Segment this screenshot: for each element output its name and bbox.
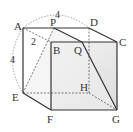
label-Q: Q bbox=[74, 44, 82, 56]
segment-AB-dashed bbox=[23, 28, 51, 42]
label-F: F bbox=[47, 113, 53, 125]
label-B: B bbox=[53, 44, 60, 56]
label-G: G bbox=[112, 113, 120, 125]
label-H: H bbox=[80, 81, 88, 93]
measure-ap: 2 bbox=[31, 36, 36, 47]
label-C: C bbox=[119, 36, 126, 48]
measure-side: 4 bbox=[10, 54, 15, 65]
measure-top: 4 bbox=[55, 9, 60, 20]
label-E: E bbox=[12, 91, 19, 103]
cube-diagram: A P D B Q C H E F G 4 2 4 bbox=[0, 0, 133, 132]
edge-DC bbox=[89, 28, 117, 42]
label-D: D bbox=[90, 16, 98, 28]
label-A: A bbox=[14, 20, 22, 32]
